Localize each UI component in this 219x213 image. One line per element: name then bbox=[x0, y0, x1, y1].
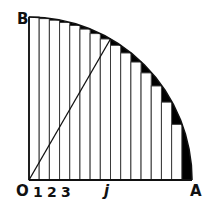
label-tick-2: 2 bbox=[47, 185, 57, 199]
rectangle-13 bbox=[151, 86, 161, 180]
rectangle-15 bbox=[172, 124, 182, 180]
label-a: A bbox=[190, 184, 202, 199]
rectangle-5 bbox=[70, 25, 80, 180]
rectangle-11 bbox=[131, 62, 141, 180]
rectangle-2 bbox=[39, 19, 49, 180]
label-tick-1: 1 bbox=[33, 185, 43, 199]
rectangle-7 bbox=[90, 34, 100, 180]
label-tick-j: j bbox=[104, 184, 109, 199]
rectangle-3 bbox=[49, 20, 59, 180]
inscribed-rectangles bbox=[29, 17, 182, 180]
rectangle-4 bbox=[60, 23, 70, 180]
rectangle-10 bbox=[121, 53, 131, 180]
rectangle-9 bbox=[111, 45, 121, 180]
label-tick-3: 3 bbox=[61, 185, 71, 199]
rectangle-12 bbox=[141, 73, 151, 180]
rectangle-1 bbox=[29, 17, 39, 180]
rectangle-8 bbox=[100, 39, 110, 180]
quarter-circle-figure bbox=[0, 0, 219, 213]
rectangle-6 bbox=[80, 29, 90, 180]
label-o: O bbox=[16, 184, 29, 199]
rectangle-14 bbox=[161, 102, 171, 180]
figure-container: B O 1 2 3 j A bbox=[0, 0, 219, 213]
label-b: B bbox=[17, 12, 28, 27]
